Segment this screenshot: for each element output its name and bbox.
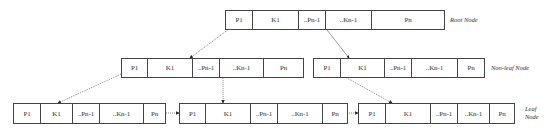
- leaf-node-label-line1: Leaf: [525, 105, 539, 113]
- nonleaf-right-cell-kn-1: ..Kn-1: [412, 59, 458, 77]
- leaf-node-1: P1 K1 ..Pn-1 ..Kn-1 Pn: [179, 103, 348, 124]
- nonleaf-right-cell-k1: K1: [341, 59, 385, 77]
- leaf2-cell-pn-1: ..Pn-1: [431, 104, 458, 123]
- leaf0-cell-pn: Pn: [144, 104, 165, 123]
- nonleaf-left-cell-p1: P1: [122, 59, 148, 77]
- non-leaf-node-right: P1 K1 ..Pn-1 ..Kn-1 Pn: [313, 58, 485, 78]
- nonleaf-right-cell-pn: Pn: [458, 59, 484, 77]
- leaf1-cell-kn-1: ..Kn-1: [278, 104, 323, 123]
- leaf2-cell-k1: K1: [386, 104, 431, 123]
- leaf0-cell-p1: P1: [14, 104, 41, 123]
- root-cell-kn-1: ..Kn-1: [326, 11, 372, 29]
- non-leaf-node-left: P1 K1 ..Pn-1 ..Kn-1 Pn: [121, 58, 304, 78]
- leaf2-cell-pn: Pn: [490, 104, 514, 123]
- leaf-node-label: Leaf Node: [525, 105, 539, 121]
- root-cell-p1: P1: [226, 11, 253, 29]
- root-node: P1 K1 ..Pn-1 ..Kn-1 Pn: [225, 10, 445, 30]
- leaf1-cell-p1: P1: [180, 104, 206, 123]
- leaf1-cell-k1: K1: [206, 104, 251, 123]
- root-cell-pn: Pn: [372, 11, 444, 29]
- leaf2-cell-p1: P1: [359, 104, 386, 123]
- leaf2-cell-kn-1: ..Kn-1: [458, 104, 490, 123]
- leaf0-cell-kn-1: ..Kn-1: [100, 104, 144, 123]
- leaf0-cell-k1: K1: [41, 104, 73, 123]
- nonleaf-left-cell-pn-1: ..Pn-1: [193, 59, 220, 77]
- edge-root-p1-to-nonleaf-left: [190, 29, 229, 58]
- leaf1-cell-pn: Pn: [323, 104, 347, 123]
- nonleaf-right-cell-p1: P1: [314, 59, 341, 77]
- root-node-label: Root Node: [450, 16, 478, 24]
- non-leaf-node-label: Non-leaf Node: [491, 64, 529, 72]
- root-cell-pn-1: ..Pn-1: [299, 11, 326, 29]
- leaf1-cell-pn-1: ..Pn-1: [251, 104, 278, 123]
- nonleaf-left-cell-pn: Pn: [264, 59, 303, 77]
- leaf-node-label-line2: Node: [525, 113, 539, 121]
- root-cell-k1: K1: [253, 11, 299, 29]
- nonleaf-left-cell-k1: K1: [148, 59, 193, 77]
- nonleaf-right-cell-pn-1: ..Pn-1: [385, 59, 412, 77]
- leaf-node-2: P1 K1 ..Pn-1 ..Kn-1 Pn: [358, 103, 515, 124]
- nonleaf-left-cell-kn-1: ..Kn-1: [220, 59, 264, 77]
- leaf-node-0: P1 K1 ..Pn-1 ..Kn-1 Pn: [13, 103, 166, 124]
- leaf0-cell-pn-1: ..Pn-1: [73, 104, 100, 123]
